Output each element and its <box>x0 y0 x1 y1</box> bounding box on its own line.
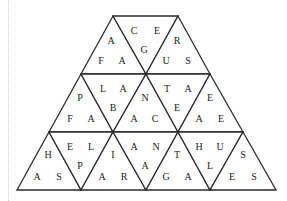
piece-letter: A <box>184 171 192 182</box>
piece-letter: L <box>88 141 94 152</box>
piece-letter: A <box>130 141 138 152</box>
piece-letter: C <box>152 113 159 124</box>
piece-letter: E <box>154 25 160 36</box>
piece-letter: A <box>130 113 138 124</box>
piece-letter: P <box>77 92 83 103</box>
piece-letter: A <box>119 83 127 94</box>
piece-letter: E <box>218 113 224 124</box>
triangle-puzzle: AFACEGRUSPFALABNACTAEEAEHASELPIARANATGAH… <box>0 0 287 201</box>
piece-letter: C <box>131 25 138 36</box>
piece-letter: A <box>118 55 126 66</box>
piece-letter: A <box>98 171 106 182</box>
piece-letter: E <box>207 92 213 103</box>
piece-letter: S <box>251 171 257 182</box>
piece-letter: A <box>87 113 95 124</box>
piece-letter: B <box>110 102 117 113</box>
piece-letter: A <box>107 35 115 46</box>
piece-letter: I <box>111 149 114 160</box>
piece-letter: U <box>162 55 170 66</box>
piece-letter: E <box>67 141 73 152</box>
piece-letter: T <box>164 83 170 94</box>
piece-letter: H <box>195 141 202 152</box>
piece-letter: G <box>162 171 169 182</box>
piece-letter: A <box>33 171 41 182</box>
piece-letter: R <box>121 171 128 182</box>
piece-letter: H <box>44 149 51 160</box>
piece-letter: N <box>141 92 148 103</box>
piece-letter: E <box>229 171 235 182</box>
piece-letter: S <box>56 171 62 182</box>
piece-letter: T <box>174 149 180 160</box>
piece-letter: N <box>152 141 159 152</box>
piece-letter: E <box>174 102 180 113</box>
piece-letter: L <box>100 83 106 94</box>
piece-letter: L <box>207 160 213 171</box>
piece-letter: F <box>67 113 73 124</box>
piece-letter: F <box>98 55 104 66</box>
piece-letter: A <box>184 83 192 94</box>
piece-letter: P <box>77 160 83 171</box>
piece-letter: U <box>216 141 224 152</box>
piece-letter: G <box>140 44 147 55</box>
piece-letter: S <box>240 149 246 160</box>
piece-letter: A <box>195 113 203 124</box>
piece-letter: R <box>174 35 181 46</box>
piece-letter: A <box>141 160 149 171</box>
piece-letter: S <box>185 55 191 66</box>
